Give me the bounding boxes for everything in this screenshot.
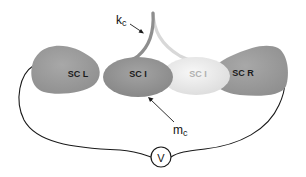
sc-left-shape	[31, 46, 99, 94]
coupling-mass-subscript: c	[183, 128, 188, 138]
coupling-mass-symbol: m	[173, 123, 183, 137]
spring-left-arm	[124, 13, 153, 62]
mass-arrow-line	[150, 99, 174, 122]
coupling-mass-label: mc	[173, 123, 188, 138]
spring-arrow-head	[139, 29, 145, 34]
spring-constant-label: kc	[116, 13, 127, 28]
sc-right-label: SC R	[232, 68, 254, 78]
voltmeter-label: V	[157, 152, 165, 164]
spring-right-arm	[153, 13, 200, 62]
sc-left-label: SC L	[68, 69, 89, 79]
diagram-canvas: SC L SC I SC I SC R kc mc V	[0, 0, 306, 177]
sc-inner-light-label: SC I	[189, 69, 207, 79]
sc-inner-dark-label: SC I	[129, 69, 147, 79]
spring-constant-subscript: c	[122, 18, 127, 28]
